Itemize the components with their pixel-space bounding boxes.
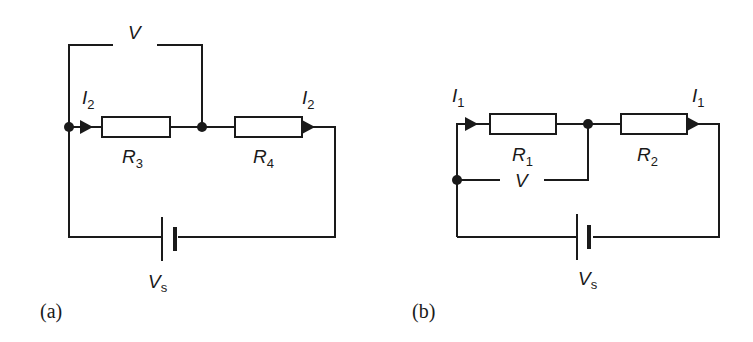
current-arrow-icon xyxy=(465,117,478,131)
node-left-b xyxy=(452,175,462,185)
node-mid-b xyxy=(583,119,593,129)
resistor-r2 xyxy=(621,114,687,134)
resistor-label-r2: R2 xyxy=(637,144,658,169)
voltage-label-b: V xyxy=(515,170,530,191)
resistor-r4 xyxy=(235,117,302,137)
probe-wire-left-a xyxy=(69,45,113,127)
current-arrow-icon xyxy=(302,120,315,134)
resistor-label-r4: R4 xyxy=(253,146,274,171)
probe-wire-right-a xyxy=(157,45,202,127)
source-label-b: Vs xyxy=(578,268,598,292)
circuit-b: V I1 I1 R1 R2 Vs (b) xyxy=(412,85,719,323)
resistor-r1 xyxy=(490,114,556,134)
caption-b: (b) xyxy=(412,300,435,323)
resistor-label-r1: R1 xyxy=(512,144,533,169)
current-label-b-right: I1 xyxy=(692,85,705,110)
resistor-label-r3: R3 xyxy=(122,146,143,171)
current-arrow-icon xyxy=(80,120,93,134)
voltage-label-a: V xyxy=(128,22,143,43)
current-label-a-right: I2 xyxy=(302,87,315,112)
node-mid-a xyxy=(197,122,207,132)
current-label-a-left: I2 xyxy=(82,87,95,112)
current-arrow-icon xyxy=(687,117,700,131)
circuit-diagram: V I2 I2 R3 R4 Vs (a) V xyxy=(0,0,753,342)
resistor-r3 xyxy=(102,117,170,137)
caption-a: (a) xyxy=(40,300,62,323)
circuit-a: V I2 I2 R3 R4 Vs (a) xyxy=(40,22,335,323)
current-label-b-left: I1 xyxy=(452,85,465,110)
source-label-a: Vs xyxy=(148,271,168,295)
node-left-a xyxy=(64,122,74,132)
